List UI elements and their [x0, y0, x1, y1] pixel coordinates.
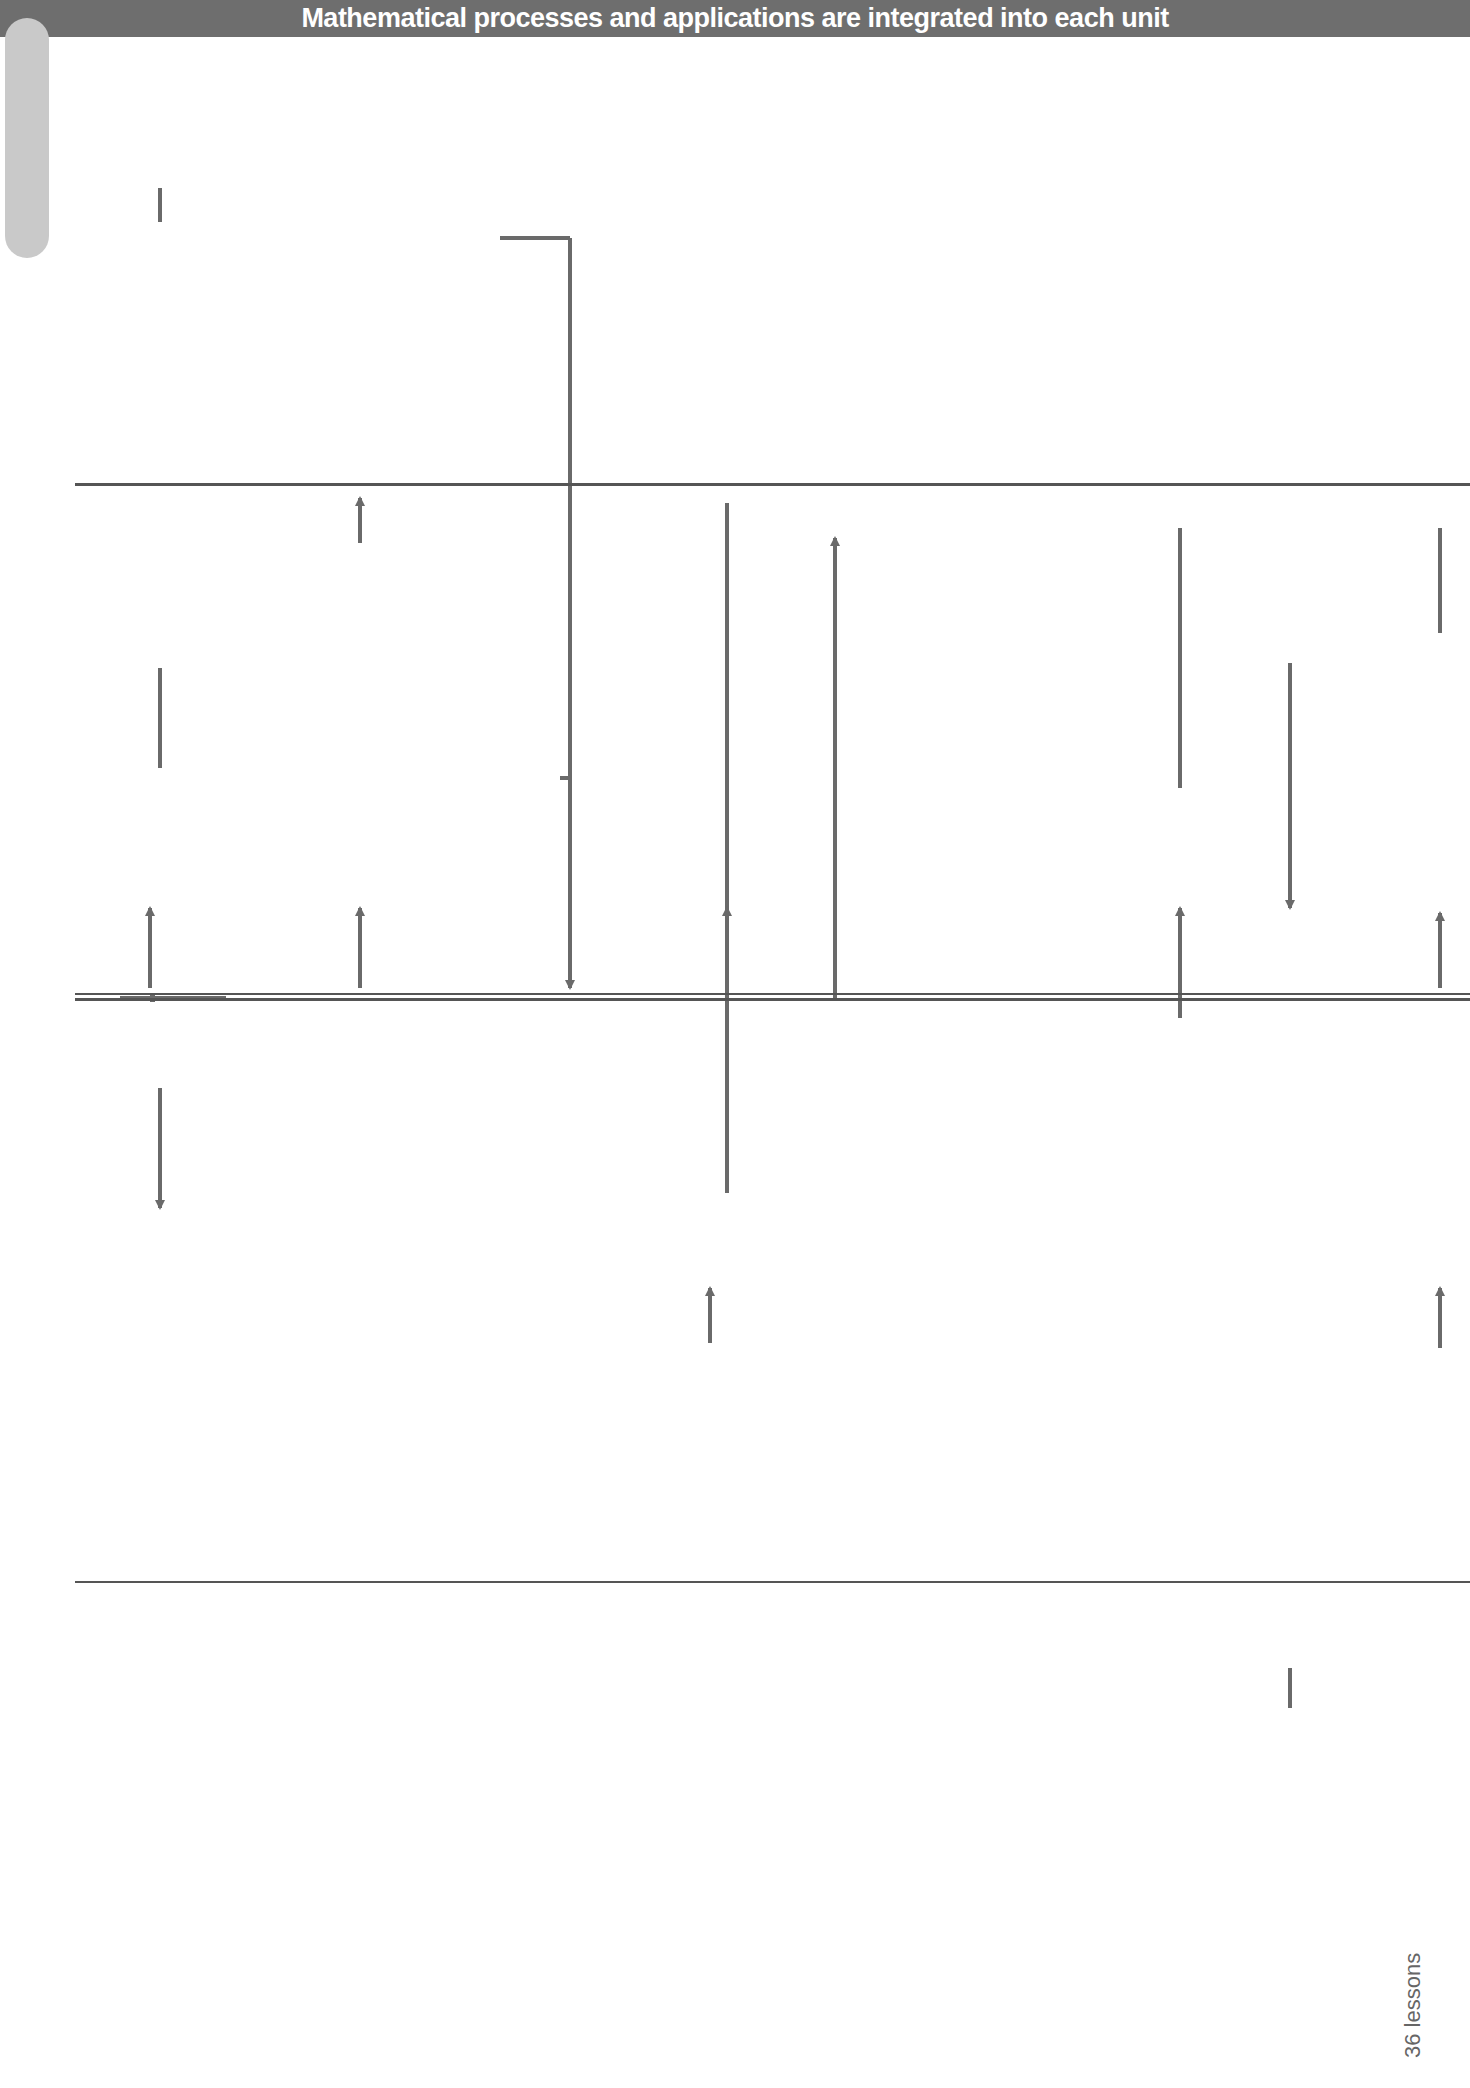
- connector-lines: [0, 0, 1470, 2088]
- unit-g41[interactable]: [5, 18, 49, 258]
- spring-divider: [75, 483, 1470, 485]
- curriculum-page: Mathematical processes and applications …: [0, 0, 1470, 2088]
- end-divider: [75, 1581, 1470, 1583]
- summer-divider: [75, 998, 1470, 1000]
- banner-text: Mathematical processes and applications …: [0, 0, 1470, 37]
- term-autumn-label: 36 lessons: [1400, 1898, 1426, 2058]
